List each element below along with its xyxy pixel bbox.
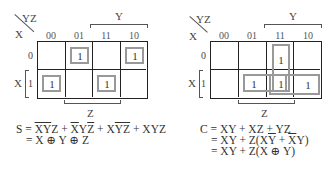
bracket-label-y: Y [115,11,123,22]
cell-1-10 [121,70,147,97]
cell-value: 1 [45,79,59,90]
bracket-z [238,103,295,104]
cell-0-10 [294,42,320,70]
bracket-z [64,103,121,104]
sum-equation-line2: = X ⊕ Y ⊕ Z [26,135,89,147]
col-header: 10 [120,31,148,41]
bracket-y [264,24,322,25]
sum-term-3: XYZ [106,123,130,135]
cell-0-00 [38,42,66,70]
bracket-label-z: Z [87,108,94,119]
cell-value: 1 [73,51,87,62]
corner-label-x: X [15,29,23,40]
row-header: 0 [201,51,206,61]
corner-label-yz: YZ [196,14,211,25]
cell-value: 1 [100,79,114,90]
carry-equation-line3: = XY + Z(X ⊕ Y) [211,146,295,158]
corner-label-x: X [189,31,197,42]
cell-0-01 [239,42,267,70]
col-header: 10 [294,31,322,41]
bracket-label-z: Z [261,108,268,119]
bracket-label-x: X [188,78,196,89]
cell-value: 1 [274,55,288,66]
corner-label-yz: YZ [22,13,37,24]
row-header: 1 [201,79,206,89]
bracket-label-x: X [14,78,22,89]
col-header: 00 [210,31,238,41]
cell-value: 1 [128,51,142,62]
col-header: 01 [65,31,93,41]
bracket-y [90,24,148,25]
cell-value: 1 [274,79,288,90]
cell-1-01 [66,70,94,97]
row-header: 0 [28,51,33,61]
cell-0-00 [211,42,239,70]
cell-1-00 [211,70,239,97]
col-header: 11 [92,31,120,41]
bracket-x [199,70,200,98]
col-header: 01 [238,31,266,41]
cell-0-11 [93,42,121,70]
sum-term-4: XYZ [142,123,166,135]
col-header: 11 [266,31,294,41]
bracket-x [25,70,26,98]
row-header: 1 [28,79,33,89]
cell-value: 1 [247,79,261,90]
cell-value: 1 [301,80,315,91]
bracket-label-y: Y [289,11,297,22]
col-header: 00 [37,31,65,41]
